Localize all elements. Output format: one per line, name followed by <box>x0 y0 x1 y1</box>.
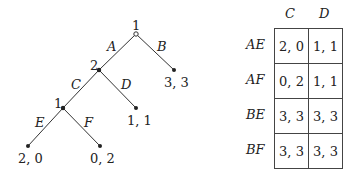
matrix-cell: 3, 3 <box>309 134 343 169</box>
matrix-cell: 1, 1 <box>309 64 343 99</box>
matrix-cell: 1, 1 <box>309 29 343 64</box>
matrix-row: 3, 3 3, 3 <box>275 134 343 169</box>
edge-label-E: E <box>35 116 45 129</box>
edge-label-B: B <box>157 40 167 53</box>
node2-player-label: 2 <box>90 59 98 72</box>
payoff-B: 3, 3 <box>164 76 189 89</box>
edge-label-A: A <box>107 40 116 53</box>
matrix-cell: 3, 3 <box>275 99 309 134</box>
edge-label-D: D <box>121 78 131 91</box>
payoff-D: 1, 1 <box>127 114 152 127</box>
payoff-matrix: 2, 0 1, 1 0, 2 1, 1 3, 3 3, 3 3, 3 3, 3 <box>274 28 343 169</box>
col-header-D: D <box>319 6 329 21</box>
edge-label-C: C <box>71 78 81 91</box>
payoff-E: 2, 0 <box>18 152 43 165</box>
matrix-cell: 3, 3 <box>275 134 309 169</box>
row-header-BE: BE <box>246 107 265 122</box>
matrix-row: 0, 2 1, 1 <box>275 64 343 99</box>
payoff-F: 0, 2 <box>90 152 115 165</box>
matrix-cell: 2, 0 <box>275 29 309 64</box>
edge-label-F: F <box>84 116 93 129</box>
row-header-AF: AF <box>246 72 264 87</box>
node1-player-label: 1 <box>54 97 62 110</box>
matrix-cell: 0, 2 <box>275 64 309 99</box>
row-header-BF: BF <box>246 142 265 157</box>
row-header-AE: AE <box>246 37 265 52</box>
root-player-label: 1 <box>132 19 140 32</box>
matrix-cell: 3, 3 <box>309 99 343 134</box>
col-header-C: C <box>285 6 295 21</box>
matrix-row: 3, 3 3, 3 <box>275 99 343 134</box>
matrix-row: 2, 0 1, 1 <box>275 29 343 64</box>
